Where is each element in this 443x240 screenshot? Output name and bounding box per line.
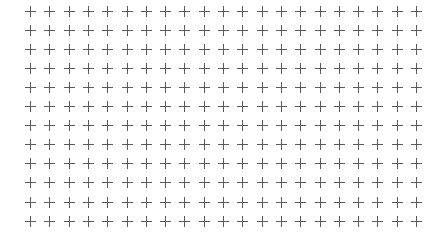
plus-icon bbox=[411, 177, 422, 188]
plus-icon bbox=[237, 44, 248, 55]
plus-icon bbox=[199, 216, 210, 227]
plus-icon bbox=[44, 139, 55, 150]
plus-icon bbox=[44, 44, 55, 55]
plus-icon bbox=[315, 25, 326, 36]
plus-icon bbox=[218, 177, 229, 188]
plus-icon bbox=[199, 63, 210, 74]
plus-icon bbox=[141, 101, 152, 112]
plus-icon bbox=[160, 44, 171, 55]
plus-icon bbox=[257, 63, 268, 74]
plus-icon bbox=[276, 139, 287, 150]
plus-icon bbox=[141, 25, 152, 36]
plus-icon bbox=[64, 197, 75, 208]
plus-icon bbox=[44, 101, 55, 112]
plus-icon bbox=[353, 101, 364, 112]
plus-icon bbox=[372, 120, 383, 131]
plus-icon bbox=[295, 82, 306, 93]
plus-icon bbox=[218, 25, 229, 36]
plus-icon bbox=[83, 139, 94, 150]
plus-icon bbox=[372, 197, 383, 208]
plus-icon bbox=[411, 63, 422, 74]
plus-icon bbox=[353, 6, 364, 17]
plus-icon bbox=[25, 25, 36, 36]
plus-icon bbox=[160, 139, 171, 150]
plus-icon bbox=[334, 158, 345, 169]
plus-icon bbox=[179, 44, 190, 55]
plus-icon bbox=[372, 158, 383, 169]
plus-icon bbox=[83, 216, 94, 227]
plus-icon bbox=[372, 82, 383, 93]
plus-icon bbox=[25, 82, 36, 93]
plus-icon bbox=[141, 197, 152, 208]
plus-icon bbox=[122, 120, 133, 131]
plus-icon bbox=[295, 158, 306, 169]
plus-icon bbox=[179, 25, 190, 36]
plus-icon bbox=[237, 177, 248, 188]
plus-icon bbox=[179, 82, 190, 93]
plus-icon bbox=[295, 139, 306, 150]
plus-icon bbox=[25, 6, 36, 17]
plus-icon bbox=[218, 101, 229, 112]
plus-icon bbox=[83, 63, 94, 74]
plus-icon bbox=[315, 44, 326, 55]
plus-icon bbox=[295, 25, 306, 36]
plus-icon bbox=[353, 44, 364, 55]
plus-icon bbox=[160, 158, 171, 169]
plus-icon bbox=[44, 120, 55, 131]
plus-icon bbox=[315, 197, 326, 208]
plus-icon bbox=[160, 216, 171, 227]
plus-icon bbox=[218, 6, 229, 17]
plus-icon bbox=[102, 120, 113, 131]
plus-icon bbox=[179, 63, 190, 74]
plus-icon bbox=[160, 63, 171, 74]
plus-icon bbox=[334, 6, 345, 17]
plus-icon bbox=[179, 158, 190, 169]
plus-icon bbox=[83, 25, 94, 36]
plus-icon bbox=[392, 197, 403, 208]
plus-icon bbox=[25, 101, 36, 112]
plus-icon bbox=[102, 63, 113, 74]
plus-icon bbox=[411, 158, 422, 169]
plus-icon bbox=[315, 82, 326, 93]
plus-icon bbox=[141, 82, 152, 93]
plus-icon bbox=[392, 6, 403, 17]
plus-icon bbox=[334, 25, 345, 36]
plus-icon bbox=[64, 101, 75, 112]
plus-icon bbox=[83, 158, 94, 169]
plus-icon bbox=[315, 101, 326, 112]
plus-icon bbox=[237, 63, 248, 74]
plus-icon bbox=[218, 63, 229, 74]
plus-icon bbox=[295, 63, 306, 74]
plus-icon bbox=[102, 25, 113, 36]
plus-icon bbox=[218, 216, 229, 227]
plus-icon bbox=[295, 197, 306, 208]
plus-icon bbox=[25, 139, 36, 150]
plus-icon bbox=[179, 216, 190, 227]
plus-icon bbox=[372, 44, 383, 55]
plus-icon bbox=[83, 101, 94, 112]
plus-icon bbox=[411, 120, 422, 131]
plus-icon bbox=[392, 25, 403, 36]
plus-icon bbox=[276, 63, 287, 74]
plus-icon bbox=[122, 197, 133, 208]
plus-icon bbox=[141, 216, 152, 227]
plus-icon bbox=[44, 216, 55, 227]
plus-icon bbox=[295, 101, 306, 112]
plus-icon bbox=[257, 6, 268, 17]
plus-icon bbox=[160, 25, 171, 36]
plus-icon bbox=[83, 6, 94, 17]
plus-icon bbox=[276, 101, 287, 112]
plus-icon bbox=[257, 197, 268, 208]
plus-icon bbox=[295, 120, 306, 131]
plus-icon bbox=[411, 6, 422, 17]
plus-icon bbox=[102, 177, 113, 188]
plus-icon bbox=[295, 216, 306, 227]
grid-canvas[interactable] bbox=[0, 0, 443, 240]
plus-icon bbox=[199, 158, 210, 169]
plus-icon bbox=[160, 6, 171, 17]
plus-icon bbox=[44, 25, 55, 36]
plus-icon bbox=[257, 158, 268, 169]
plus-icon bbox=[334, 44, 345, 55]
plus-icon bbox=[392, 63, 403, 74]
plus-icon bbox=[199, 101, 210, 112]
